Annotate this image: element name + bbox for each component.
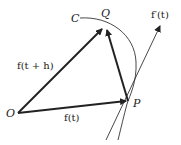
- label-c: C: [71, 12, 79, 25]
- vector-f-t-plus-h: [18, 29, 102, 113]
- label-q: Q: [101, 7, 110, 20]
- label-f-t: f(t): [64, 112, 80, 123]
- derivative-vector-diagram: C Q P O f(t + h) f(t) f′(t): [0, 0, 181, 145]
- label-f-prime-t: f′(t): [151, 9, 169, 20]
- label-o: O: [6, 107, 15, 120]
- diagram-canvas: [0, 0, 181, 145]
- label-p: P: [133, 97, 140, 110]
- vector-p-to-q: [107, 30, 128, 101]
- label-f-t-plus-h: f(t + h): [17, 60, 54, 71]
- tangent-vector-line: [106, 26, 160, 140]
